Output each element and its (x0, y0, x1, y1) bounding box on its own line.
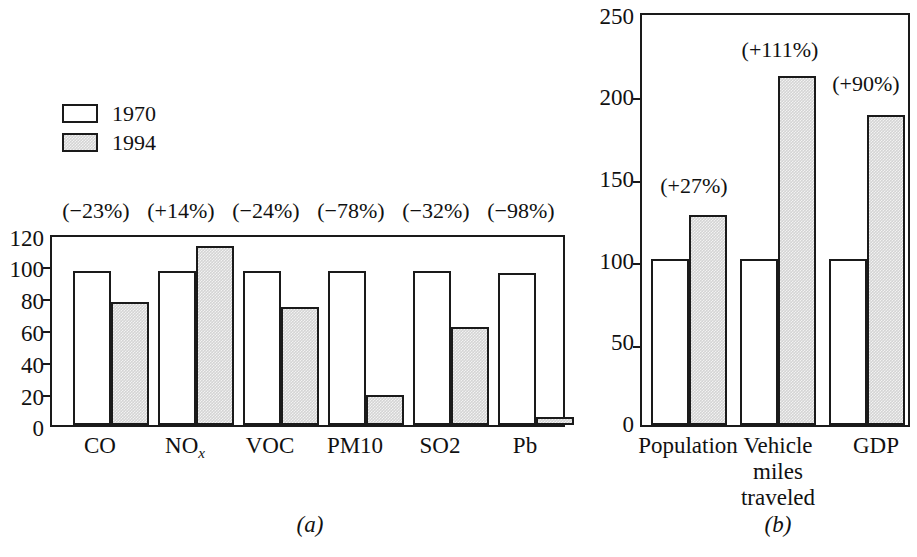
annotation-a-co: (−23%) (48, 200, 144, 222)
bar-a-co-1970 (73, 271, 111, 425)
y-tick-a-20 (43, 395, 52, 397)
figure-root: 1970 1994 120 100 80 60 40 20 0 (−23%) (… (0, 0, 917, 557)
bar-a-voc-1970 (243, 271, 281, 425)
y-tick-label-a-60: 60 (0, 322, 44, 345)
bar-a-so2-1994 (451, 327, 489, 425)
y-tick-label-a-80: 80 (0, 290, 44, 313)
bar-b-vehicle-miles-1970 (740, 259, 778, 425)
y-tick-b-100 (633, 263, 642, 265)
plot-area-a (50, 235, 565, 427)
x-label-a-pm10-text: PM10 (327, 433, 383, 458)
bar-a-co-1994 (111, 302, 149, 425)
y-tick-label-a-100: 100 (0, 258, 44, 281)
bar-a-voc-1994 (281, 307, 319, 425)
x-label-a-co-text: CO (84, 433, 116, 458)
y-tick-label-b-50: 50 (588, 331, 634, 354)
subcaption-a: (a) (262, 512, 358, 538)
y-tick-a-80 (43, 299, 52, 301)
x-label-a-so2: SO2 (392, 433, 488, 459)
bar-a-pm10-1994 (366, 395, 404, 425)
y-tick-label-b-200: 200 (588, 86, 634, 109)
annotation-b-vehicle-miles: (+111%) (718, 39, 842, 61)
bar-a-nox-1994 (196, 246, 234, 425)
x-label-a-so2-text: SO2 (420, 433, 461, 458)
x-label-a-nox-subscript: x (198, 444, 205, 461)
subcaption-b: (b) (730, 512, 826, 538)
bar-a-pb-1994 (536, 417, 574, 425)
bar-b-gdp-1970 (829, 259, 867, 425)
y-tick-a-60 (43, 331, 52, 333)
x-label-a-pb-text: Pb (513, 433, 537, 458)
x-label-a-co: CO (52, 433, 148, 459)
y-tick-b-50 (633, 346, 642, 348)
y-tick-label-b-100: 100 (588, 250, 634, 273)
x-label-a-pm10: PM10 (307, 433, 403, 459)
y-tick-label-b-250: 250 (588, 5, 634, 28)
annotation-b-gdp: (+90%) (810, 73, 917, 95)
plot-area-b: (+27%) (+111%) (+90%) (640, 13, 910, 427)
annotation-b-population: (+27%) (638, 175, 750, 197)
bar-b-population-1994 (689, 215, 727, 425)
x-label-a-voc: VOC (222, 433, 318, 459)
bar-a-nox-1970 (158, 271, 196, 425)
annotation-a-voc: (−24%) (218, 200, 314, 222)
y-tick-b-200 (633, 98, 642, 100)
y-tick-label-a-0: 0 (0, 417, 44, 440)
x-label-b-gdp-line-1: GDP (853, 433, 899, 458)
bar-b-gdp-1994 (867, 115, 905, 425)
y-tick-a-40 (43, 363, 52, 365)
annotation-a-nox: (+14%) (133, 200, 229, 222)
x-label-b-vehicle-miles-line-2: miles (720, 459, 836, 485)
legend-label-1994: 1994 (112, 132, 156, 154)
bar-a-pb-1970 (498, 273, 536, 425)
bar-b-population-1970 (651, 259, 689, 425)
x-label-a-nox: NOx (137, 433, 233, 461)
y-tick-label-a-120: 120 (0, 227, 44, 250)
x-label-a-nox-text: NO (165, 433, 198, 458)
annotation-a-pm10: (−78%) (303, 200, 399, 222)
legend-swatch-1994-icon (62, 133, 98, 152)
bar-a-pm10-1970 (328, 271, 366, 425)
x-label-a-voc-text: VOC (246, 433, 295, 458)
bar-b-vehicle-miles-1994 (778, 76, 816, 425)
y-tick-label-a-40: 40 (0, 354, 44, 377)
y-tick-label-b-150: 150 (588, 168, 634, 191)
legend-label-1970: 1970 (112, 103, 156, 125)
annotation-a-so2: (−32%) (388, 200, 484, 222)
annotation-a-pb: (−98%) (473, 200, 569, 222)
x-label-b-vehicle-miles-line-3: traveled (720, 485, 836, 511)
y-tick-label-b-0: 0 (588, 413, 634, 436)
x-label-a-pb: Pb (477, 433, 573, 459)
y-tick-label-a-20: 20 (0, 386, 44, 409)
y-tick-a-100 (43, 267, 52, 269)
legend-swatch-1970-icon (62, 104, 98, 123)
bar-a-so2-1970 (413, 271, 451, 425)
x-label-b-gdp: GDP (818, 433, 917, 459)
